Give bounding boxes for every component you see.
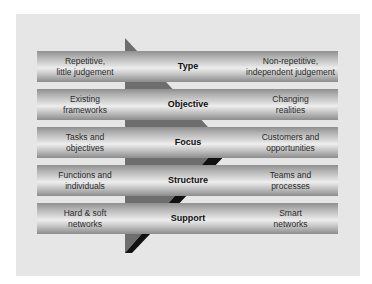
to-value: Teams and processes (243, 165, 338, 196)
to-value: Non-repetitive, independent judgement (243, 51, 338, 82)
dimension-label: Support (133, 203, 243, 234)
to-value: Changing realities (243, 89, 338, 120)
from-value: Hard & soft networks (37, 203, 133, 234)
row-objective: Existing frameworks Objective Changing r… (37, 89, 338, 120)
row-structure: Functions and individuals Structure Team… (37, 165, 338, 196)
dimension-label: Type (133, 51, 243, 82)
from-value: Repetitive, little judgement (37, 51, 133, 82)
dimension-label: Focus (133, 127, 243, 158)
row-focus: Tasks and objectives Focus Customers and… (37, 127, 338, 158)
from-value: Existing frameworks (37, 89, 133, 120)
row-type: Repetitive, little judgement Type Non-re… (37, 51, 338, 82)
row-support: Hard & soft networks Support Smart netwo… (37, 203, 338, 234)
to-value: Smart networks (243, 203, 338, 234)
from-value: Tasks and objectives (37, 127, 133, 158)
to-value: Customers and opportunities (243, 127, 338, 158)
from-value: Functions and individuals (37, 165, 133, 196)
dimension-label: Objective (133, 89, 243, 120)
dimension-label: Structure (133, 165, 243, 196)
